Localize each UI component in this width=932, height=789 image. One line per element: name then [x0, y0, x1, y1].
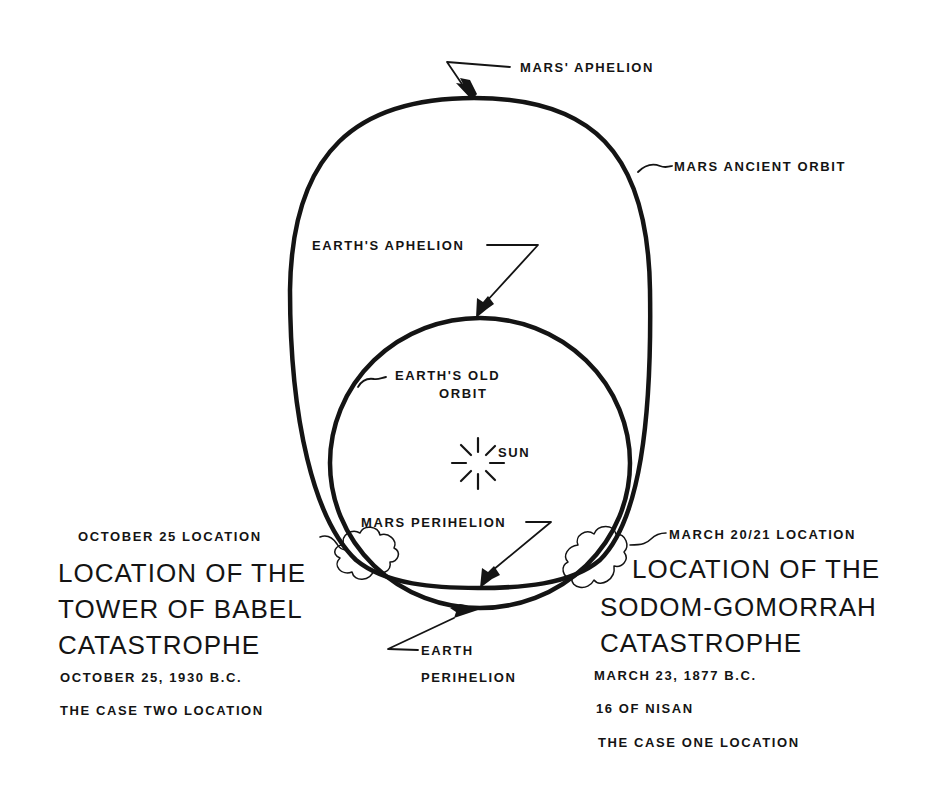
- babel-date: OCTOBER 25, 1930 B.C.: [60, 670, 242, 685]
- earths-old-orbit-leader: [358, 377, 386, 387]
- mars-aphelion-leader: [447, 62, 510, 90]
- sodom-date: MARCH 23, 1877 B.C.: [594, 668, 757, 683]
- babel-heading-line2: TOWER OF BABEL: [58, 592, 303, 626]
- sodom-nisan: 16 OF NISAN: [596, 701, 694, 716]
- earths-old-orbit-label-line2: ORBIT: [439, 386, 487, 401]
- babel-case: THE CASE TWO LOCATION: [60, 703, 264, 718]
- earth-perihelion-label-line2: PERIHELION: [421, 670, 516, 685]
- earths-aphelion-label: EARTH'S APHELION: [312, 238, 464, 253]
- earths-aphelion-leader: [485, 245, 538, 303]
- babel-heading-line1: LOCATION OF THE: [58, 556, 306, 590]
- earths-old-orbit-label-line1: EARTH'S OLD: [395, 368, 500, 383]
- earth-perihelion-label-line1: EARTH: [421, 643, 474, 658]
- mars-aphelion-label: MARS' APHELION: [520, 60, 654, 75]
- arrow-icon: [480, 566, 500, 588]
- sodom-heading-line3: CATASTROPHE: [600, 626, 802, 660]
- sun-icon: [452, 438, 504, 489]
- sodom-case: THE CASE ONE LOCATION: [598, 735, 800, 750]
- cloud-icon: [335, 527, 399, 579]
- babel-heading-line3: CATASTROPHE: [58, 628, 260, 662]
- mars-ancient-orbit-label: MARS ANCIENT ORBIT: [674, 159, 846, 174]
- october-location-label: OCTOBER 25 LOCATION: [78, 529, 262, 544]
- mars-perihelion-label: MARS PERIHELION: [361, 515, 506, 530]
- earths-old-orbit: [330, 318, 630, 608]
- march-location-label: MARCH 20/21 LOCATION: [669, 527, 856, 542]
- arrow-icon: [476, 296, 494, 318]
- march-leader: [630, 533, 666, 545]
- sodom-heading-line2: SODOM-GOMORRAH: [600, 590, 877, 624]
- sodom-heading-line1: LOCATION OF THE: [632, 552, 880, 586]
- sun-label: SUN: [498, 445, 530, 460]
- mars-orbit-leader: [638, 165, 672, 172]
